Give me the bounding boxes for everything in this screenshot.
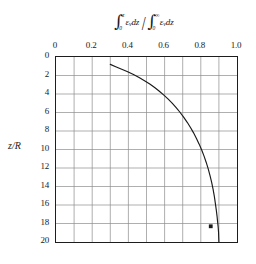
x-tick-label: 0	[44, 40, 66, 50]
y-tick-label: 0	[33, 50, 49, 60]
x-tick-label: 0.6	[153, 40, 175, 50]
x-tick-label: 0.2	[80, 40, 102, 50]
figure-container: ∫ z 0 ενdz / ∫ ∞ 0 ενdz z/R 00.20.40.60.…	[0, 0, 256, 264]
y-tick-label: 16	[33, 198, 49, 208]
ratio-divider: /	[142, 14, 146, 33]
denominator-lower-limit: 0	[152, 26, 156, 32]
y-tick-label: 18	[33, 217, 49, 227]
numerator-upper-limit: z	[122, 13, 125, 19]
denominator-upper-limit: ∞	[155, 13, 159, 19]
y-tick-label: 4	[33, 87, 49, 97]
y-tick-label: 20	[33, 235, 49, 245]
y-tick-label: 12	[33, 161, 49, 171]
data-point-marker	[209, 224, 213, 228]
denominator-integrand: ενdz	[160, 18, 174, 27]
y-tick-label: 6	[33, 106, 49, 116]
y-axis-label-denominator: R	[15, 140, 21, 151]
numerator-integral: ∫ z 0 ενdz	[114, 14, 139, 30]
numerator-integrand: ενdz	[125, 18, 139, 27]
denominator-differential: dz	[166, 17, 174, 27]
denominator-integral: ∫ ∞ 0 ενdz	[148, 14, 174, 30]
y-tick-label: 14	[33, 180, 49, 190]
y-tick-label: 8	[33, 124, 49, 134]
x-tick-label: 1.0	[225, 40, 247, 50]
plot-canvas	[56, 57, 237, 242]
numerator-lower-limit: 0	[119, 26, 122, 32]
y-tick-label: 2	[33, 69, 49, 79]
x-tick-label: 0.8	[189, 40, 211, 50]
integral-ratio-expression: ∫ z 0 ενdz / ∫ ∞ 0 ενdz	[114, 13, 173, 32]
x-axis-title: ∫ z 0 ενdz / ∫ ∞ 0 ενdz	[86, 9, 202, 35]
plot-area	[55, 56, 238, 243]
numerator-differential: dz	[131, 17, 139, 27]
y-axis-label: z/R	[8, 140, 21, 151]
x-tick-label: 0.4	[116, 40, 138, 50]
grid-lines	[56, 57, 237, 242]
y-tick-label: 10	[33, 143, 49, 153]
